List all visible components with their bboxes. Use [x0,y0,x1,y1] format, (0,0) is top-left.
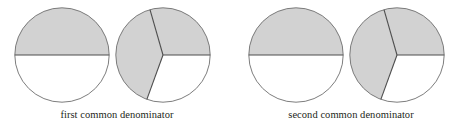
caption-first-common-denominator: first common denominator [0,108,234,121]
fraction-circles-figure: first common denominator second common d… [0,0,469,127]
pie-row-first [0,3,234,106]
pie-slice-shaded [249,8,343,55]
pie-row-second [234,3,468,106]
pie-chart-thirds-second [347,5,447,105]
pie-chart-thirds-first [113,5,213,105]
pie-chart-half-second [246,5,346,105]
pie-slice-shaded [15,8,109,55]
caption-second-common-denominator: second common denominator [234,108,468,121]
diagram-group-first: first common denominator [0,0,234,127]
pie-chart-half-first [12,5,112,105]
diagram-group-second: second common denominator [234,0,468,127]
